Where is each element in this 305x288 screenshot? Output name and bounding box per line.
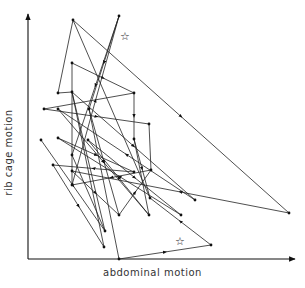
trajectory-edge (58, 92, 72, 93)
data-point (71, 91, 74, 94)
data-point (150, 169, 153, 172)
data-point (104, 230, 107, 233)
data-point (88, 108, 91, 111)
star-icon: ☆ (175, 235, 185, 248)
respiratory-loop-diagram: ☆☆ (0, 0, 305, 288)
data-point (72, 19, 75, 22)
trajectory-edge (134, 139, 149, 215)
data-point (43, 108, 46, 111)
data-point (103, 246, 106, 249)
trajectory-edge (72, 155, 105, 231)
x-axis-label: abdominal motion (100, 267, 205, 278)
data-point (133, 92, 136, 95)
trajectory-edge (89, 109, 119, 215)
data-point (194, 199, 197, 202)
trajectory-edge (72, 92, 105, 231)
data-point (118, 214, 121, 217)
trajectory-edge (88, 140, 181, 215)
trajectory-edge (119, 245, 211, 259)
trajectory-edge (73, 20, 289, 213)
trajectory-edge (58, 109, 195, 200)
trajectory-edge (149, 124, 151, 170)
data-point (87, 139, 90, 142)
data-point (288, 212, 291, 215)
y-axis-label: rib cage motion (3, 103, 14, 203)
data-point (71, 170, 74, 173)
data-point (40, 139, 43, 142)
data-point (148, 123, 151, 126)
data-point (210, 244, 213, 247)
data-point (148, 214, 151, 217)
trajectory-edge (58, 20, 73, 93)
trajectory-edge (72, 92, 195, 200)
data-point (52, 164, 55, 167)
trajectory-edge (119, 170, 151, 215)
star-icon: ☆ (120, 30, 130, 43)
trajectory-edge (53, 165, 134, 172)
data-point (57, 92, 60, 95)
trajectory-edges (41, 16, 289, 259)
data-point (71, 184, 74, 187)
data-point (118, 15, 121, 18)
data-point (71, 62, 74, 65)
trajectory-nodes (40, 15, 291, 261)
data-point (133, 171, 136, 174)
data-point (133, 138, 136, 141)
data-point (149, 197, 152, 200)
data-point (118, 258, 121, 261)
data-point (57, 108, 60, 111)
data-point (71, 154, 74, 157)
trajectory-edge (72, 171, 289, 213)
data-point (180, 214, 183, 217)
data-point (57, 137, 60, 140)
star-markers: ☆☆ (120, 30, 185, 248)
axes (28, 14, 295, 259)
trajectory-edge (89, 16, 119, 109)
